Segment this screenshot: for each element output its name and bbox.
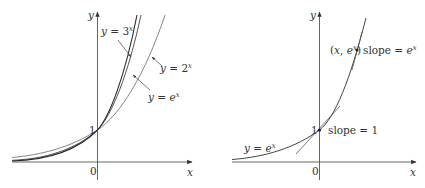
curve-2-pow-x <box>12 15 165 158</box>
right-origin-label: 0 <box>312 165 319 177</box>
left-x-label: x <box>187 166 193 178</box>
label-e-pow-x: y = ex <box>147 91 180 103</box>
right-x-label: x <box>410 166 416 178</box>
figure: y x 0 1 y = 3x y = 2x y = ex <box>0 0 425 188</box>
label-2-pow-x: y = 2x <box>159 62 192 74</box>
right-curve-label: y = ex <box>243 142 276 154</box>
left-y-tick-1: 1 <box>89 124 96 136</box>
pointer-e-pow-x <box>133 75 150 90</box>
point-0-1 <box>318 128 321 131</box>
point-label-x-e-pow-x: (x, ex) <box>330 44 361 56</box>
right-y-label: y <box>309 9 317 21</box>
right-y-tick-1: 1 <box>311 124 318 136</box>
pointer-3-pow-x <box>118 40 131 57</box>
right-graph: y x 0 1 (x, ex) slope = ex slope = 1 y =… <box>232 9 417 180</box>
curve-e-pow-x-right <box>232 18 366 160</box>
slope-e-pow-x-label: slope = ex <box>363 44 417 56</box>
left-y-label: y <box>87 9 95 21</box>
left-origin-label: 0 <box>90 165 97 177</box>
slope-1-label: slope = 1 <box>328 124 378 136</box>
left-graph: y x 0 1 y = 3x y = 2x y = ex <box>12 9 193 180</box>
label-3-pow-x: y = 3x <box>100 25 133 37</box>
